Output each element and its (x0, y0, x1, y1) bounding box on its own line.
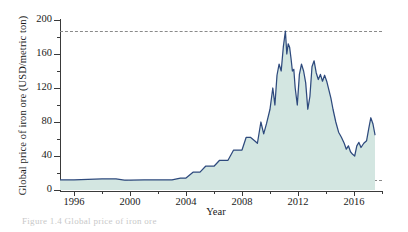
x-tick-minor (102, 191, 103, 194)
series-area-fill (60, 31, 375, 190)
figure-caption-text: Figure 1.4 Global price of iron ore (22, 216, 157, 226)
y-tick-label: 120 (12, 81, 52, 92)
x-tick-minor (158, 191, 159, 194)
y-tick-label: 80 (12, 115, 52, 126)
iron-ore-price-series (60, 20, 382, 190)
y-tick-label: 160 (12, 47, 52, 58)
y-tick-label: 40 (12, 149, 52, 160)
y-tick-major (54, 190, 60, 191)
x-axis-spine (60, 191, 383, 192)
x-tick-minor (382, 191, 383, 194)
y-tick-label: 0 (12, 183, 52, 194)
x-tick-minor (214, 191, 215, 194)
x-tick-minor (326, 191, 327, 194)
y-axis-label: Global price of iron ore (USD/metric ton… (17, 6, 28, 206)
figure-caption: Figure 1.4 Global price of iron ore (0, 216, 408, 232)
y-tick-label: 200 (12, 13, 52, 24)
chart-figure: Global price of iron ore (USD/metric ton… (0, 0, 408, 232)
x-tick-minor (270, 191, 271, 194)
